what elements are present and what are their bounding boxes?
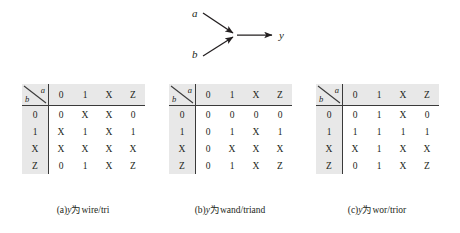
table-cell: 0 (415, 106, 439, 124)
table-cell: X (121, 140, 145, 157)
resolution-tables-row: a b 0 1 X Z 0 0 X X 0 1 X 1 X (0, 84, 460, 174)
caption-index: (a) (57, 205, 68, 215)
caption-types: wor/trior (372, 205, 406, 215)
corner-row-var: b (319, 95, 323, 104)
table-cell: X (97, 140, 121, 157)
table-grid: a b 0 1 X Z 0 0 X X 0 1 X 1 X (22, 84, 145, 174)
row-header: 0 (169, 106, 196, 124)
table-cell: X (220, 140, 244, 157)
table-cell: X (244, 140, 268, 157)
table-grid: a b 0 1 X Z 0 0 1 X 0 1 1 1 1 (316, 84, 439, 174)
caption-wire-tri: (a)y为wire/tri (22, 202, 144, 216)
caption-wand-triand: (b)y为wand/triand (169, 202, 291, 216)
table-cell: 0 (121, 106, 145, 124)
table-cell: 1 (367, 140, 391, 157)
table-cell: 0 (196, 157, 221, 174)
col-header: 0 (49, 84, 74, 106)
table-row: X 0 X X X (169, 140, 292, 157)
table-cell: X (244, 123, 268, 140)
resolution-table-wand-triand: a b 0 1 X Z 0 0 0 0 0 1 0 1 X (169, 84, 291, 174)
table-cell: X (73, 106, 97, 124)
table-cell: 0 (343, 106, 368, 124)
table-cell: 0 (220, 106, 244, 124)
col-header: 1 (73, 84, 97, 106)
corner-col-var: a (41, 86, 45, 95)
col-header: X (391, 84, 415, 106)
corner-col-var: a (188, 86, 192, 95)
caption-types: wire/tri (81, 205, 109, 215)
table-cell: X (415, 140, 439, 157)
table-cell: 1 (73, 123, 97, 140)
table-cell: Z (121, 157, 145, 174)
table-cell: 0 (343, 157, 368, 174)
table-cell: 1 (367, 123, 391, 140)
col-header: 1 (367, 84, 391, 106)
diagram-input-a-label: a (192, 8, 198, 19)
table-cell: 0 (268, 106, 292, 124)
col-header: Z (268, 84, 292, 106)
caption-wor-trior: (c)y为wor/trior (316, 202, 438, 216)
col-header: 0 (196, 84, 221, 106)
table-cell: X (391, 157, 415, 174)
table-cell: 1 (268, 123, 292, 140)
table-cell: Z (415, 157, 439, 174)
col-header: X (244, 84, 268, 106)
table-row: 0 0 0 0 0 (169, 106, 292, 124)
captions-row: (a)y为wire/tri (b)y为wand/triand (c)y为wor/… (0, 202, 460, 216)
corner-row-var: b (25, 95, 29, 104)
table-cell: 1 (391, 123, 415, 140)
corner-row-var: b (172, 95, 176, 104)
input-b-arrow (203, 37, 233, 56)
table-cell: X (97, 157, 121, 174)
table-row: Z 0 1 X Z (316, 157, 439, 174)
corner-col-var: a (335, 86, 339, 95)
table-cell: 0 (49, 106, 74, 124)
caption-types: wand/triand (220, 205, 265, 215)
table-row: X X X X X (22, 140, 145, 157)
col-header: Z (121, 84, 145, 106)
row-header: Z (169, 157, 196, 174)
diagram-output-y-label: y (279, 30, 284, 41)
table-cell: X (391, 106, 415, 124)
col-header: X (97, 84, 121, 106)
table-cell: X (73, 140, 97, 157)
wired-logic-diagram: a b y (186, 2, 296, 68)
table-cell: 1 (121, 123, 145, 140)
table-cell: 1 (367, 157, 391, 174)
table-row: X X 1 X X (316, 140, 439, 157)
table-cell: 1 (343, 123, 368, 140)
col-header: 1 (220, 84, 244, 106)
corner-header-cell: a b (22, 84, 49, 106)
table-row: Z 0 1 X Z (22, 157, 145, 174)
col-header: 0 (343, 84, 368, 106)
row-header: Z (316, 157, 343, 174)
table-cell: X (391, 140, 415, 157)
table-header-row: a b 0 1 X Z (22, 84, 145, 106)
row-header: 1 (22, 123, 49, 140)
table-row: 1 1 1 1 1 (316, 123, 439, 140)
caption-middle: 为 (362, 205, 372, 215)
caption-index: (b) (195, 205, 206, 215)
table-cell: Z (268, 157, 292, 174)
table-header-row: a b 0 1 X Z (316, 84, 439, 106)
row-header: 0 (316, 106, 343, 124)
input-a-arrow (203, 13, 233, 33)
col-header: Z (415, 84, 439, 106)
caption-index: (c) (348, 205, 359, 215)
table-cell: X (268, 140, 292, 157)
resolution-table-wire-tri: a b 0 1 X Z 0 0 X X 0 1 X 1 X (22, 84, 144, 174)
table-cell: 1 (220, 157, 244, 174)
table-cell: X (244, 157, 268, 174)
diagram-input-b-label: b (192, 49, 198, 60)
row-header: Z (22, 157, 49, 174)
row-header: 1 (169, 123, 196, 140)
table-cell: X (343, 140, 368, 157)
table-cell: X (49, 123, 74, 140)
table-cell: X (49, 140, 74, 157)
table-cell: 0 (196, 140, 221, 157)
table-grid: a b 0 1 X Z 0 0 0 0 0 1 0 1 X (169, 84, 292, 174)
table-cell: 0 (244, 106, 268, 124)
corner-header-cell: a b (316, 84, 343, 106)
table-cell: 0 (196, 123, 221, 140)
table-cell: 1 (367, 106, 391, 124)
